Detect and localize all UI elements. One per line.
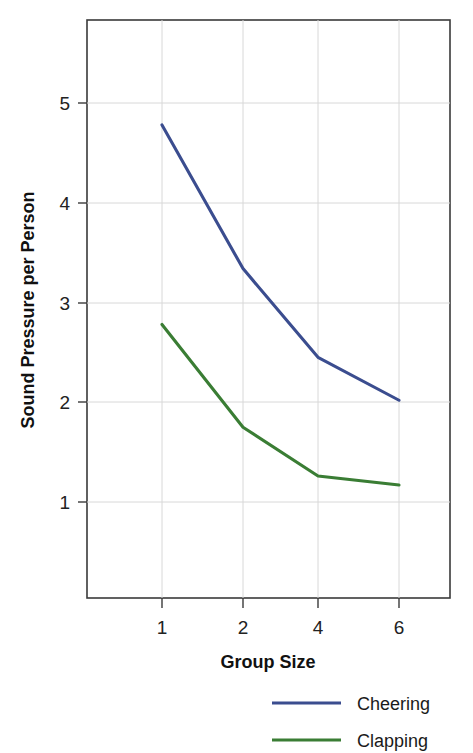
y-tick-label-1: 1 (59, 492, 70, 513)
grid-vertical (162, 20, 399, 598)
y-axis-ticks (78, 103, 87, 502)
x-axis-title: Group Size (220, 652, 315, 672)
x-axis-tick-labels: 1 2 4 6 (157, 617, 405, 638)
x-tick-label-2: 2 (238, 617, 249, 638)
x-axis-ticks (162, 598, 399, 608)
series-line-clapping (162, 324, 399, 485)
legend-label-clapping: Clapping (357, 731, 428, 751)
y-tick-label-4: 4 (59, 193, 70, 214)
line-chart: 5 4 3 2 1 1 2 4 6 Sound Pressure per Per… (0, 0, 473, 753)
y-axis-title: Sound Pressure per Person (18, 191, 38, 428)
y-tick-label-2: 2 (59, 392, 70, 413)
chart-container: 5 4 3 2 1 1 2 4 6 Sound Pressure per Per… (0, 0, 473, 753)
series-line-cheering (162, 125, 399, 400)
y-axis-tick-labels: 5 4 3 2 1 (59, 93, 70, 513)
y-tick-label-5: 5 (59, 93, 70, 114)
y-tick-label-3: 3 (59, 293, 70, 314)
x-tick-label-3: 4 (313, 617, 324, 638)
x-tick-label-1: 1 (157, 617, 168, 638)
x-tick-label-4: 6 (394, 617, 405, 638)
legend-label-cheering: Cheering (357, 694, 430, 714)
plot-frame (87, 20, 450, 598)
legend: Cheering Clapping (272, 694, 430, 751)
